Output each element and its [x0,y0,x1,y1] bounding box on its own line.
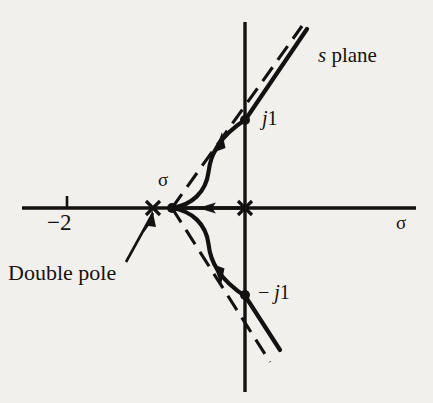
s-plane-label-italic: s [318,43,326,67]
root-locus-figure: s plane j1 − j1 σ σ −2 Double pole [0,0,433,403]
minus-j1-label: − j1 [258,282,290,302]
minus-j1-crossing-dot [240,290,250,300]
minus-j1-label-sign: − [258,281,274,303]
asymptote-upper [172,26,302,208]
double-pole-label: Double pole [8,262,116,284]
breakaway-point-dot [167,203,177,213]
minus-j1-label-rest: 1 [280,281,290,303]
j1-crossing-dot [240,115,250,125]
sigma-axis-label: σ [396,213,406,232]
sigma-breakaway-label: σ [158,170,168,189]
j1-label: j1 [262,108,278,128]
s-plane-label-rest: plane [326,43,377,67]
minus-two-tick-label: −2 [47,211,71,234]
s-plane-label: s plane [318,45,377,66]
j1-label-rest: 1 [268,107,278,129]
locus-lower-branch [172,208,280,350]
